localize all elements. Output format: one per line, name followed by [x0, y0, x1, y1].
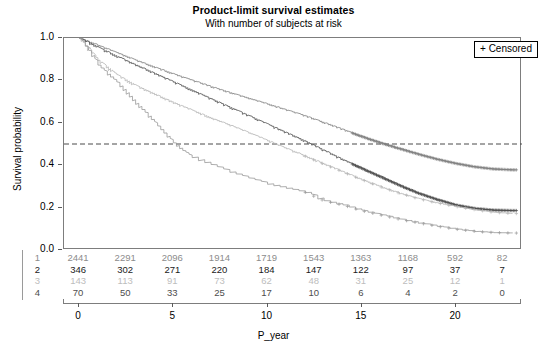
survival-curve-2	[79, 38, 512, 211]
x-axis-label: P_year	[0, 330, 547, 341]
risk-cell: 4	[387, 287, 429, 298]
x-tick-mark	[78, 303, 79, 307]
risk-cell: 91	[151, 275, 193, 286]
risk-cell: 82	[481, 252, 523, 263]
y-tick-mark	[58, 164, 62, 165]
y-tick-label: 0.2	[14, 201, 54, 212]
legend: + Censored	[474, 41, 538, 58]
risk-cell: 346	[57, 264, 99, 275]
risk-cell: 2441	[57, 252, 99, 263]
risk-cell: 1719	[246, 252, 288, 263]
risk-cell: 271	[151, 264, 193, 275]
risk-table-row: 3143113917362483125121	[24, 275, 521, 286]
risk-table-row: 12441229120961914171915431363116859282	[24, 252, 521, 263]
risk-cell: 50	[104, 287, 146, 298]
risk-table-row: 47050332517106420	[24, 287, 521, 298]
risk-cell: 184	[246, 264, 288, 275]
y-tick-label: 0.8	[14, 73, 54, 84]
risk-row-label: 3	[24, 275, 40, 286]
y-tick-mark	[58, 207, 62, 208]
risk-cell: 143	[57, 275, 99, 286]
risk-cell: 0	[481, 287, 523, 298]
x-tick-mark	[361, 303, 362, 307]
y-tick-label: 0.4	[14, 158, 54, 169]
risk-cell: 7	[481, 264, 523, 275]
risk-cell: 70	[57, 287, 99, 298]
plot-area	[63, 37, 521, 249]
risk-cell: 73	[198, 275, 240, 286]
risk-cell: 122	[340, 264, 382, 275]
risk-cell: 113	[104, 275, 146, 286]
chart-subtitle: With number of subjects at risk	[0, 18, 547, 29]
x-tick-label: 20	[435, 310, 475, 321]
y-tick-label: 0.6	[14, 116, 54, 127]
x-tick-label: 15	[341, 310, 381, 321]
survival-chart-figure: Product-limit survival estimates With nu…	[0, 0, 547, 351]
risk-cell: 2096	[151, 252, 193, 263]
risk-cell: 592	[434, 252, 476, 263]
legend-censored-label: + Censored	[480, 43, 532, 54]
x-tick-mark	[455, 303, 456, 307]
x-axis-cap-left	[63, 299, 64, 304]
risk-cell: 2291	[104, 252, 146, 263]
risk-cell: 302	[104, 264, 146, 275]
risk-cell: 31	[340, 275, 382, 286]
risk-row-label: 2	[24, 264, 40, 275]
risk-table-divider	[22, 250, 23, 300]
survival-curve-3	[79, 38, 512, 213]
censor-marks-1	[351, 131, 518, 171]
risk-cell: 25	[387, 275, 429, 286]
survival-curve-4	[79, 38, 512, 233]
x-axis-line	[63, 303, 521, 304]
risk-table-row: 234630227122018414712297377	[24, 264, 521, 275]
risk-cell: 33	[151, 287, 193, 298]
risk-cell: 6	[340, 287, 382, 298]
risk-cell: 1	[481, 275, 523, 286]
x-tick-mark	[172, 303, 173, 307]
x-tick-label: 0	[58, 310, 98, 321]
risk-cell: 25	[198, 287, 240, 298]
risk-cell: 147	[293, 264, 335, 275]
y-tick-mark	[58, 37, 62, 38]
x-tick-mark	[267, 303, 268, 307]
censor-marks-4	[304, 191, 518, 235]
x-axis-cap-right	[520, 299, 521, 304]
survival-curve-1	[79, 38, 512, 170]
x-tick-label: 10	[247, 310, 287, 321]
risk-cell: 97	[387, 264, 429, 275]
risk-cell: 10	[293, 287, 335, 298]
risk-cell: 17	[246, 287, 288, 298]
censor-marks-2	[351, 162, 518, 212]
risk-cell: 48	[293, 275, 335, 286]
risk-cell: 1543	[293, 252, 335, 263]
y-tick-mark	[58, 79, 62, 80]
chart-title: Product-limit survival estimates	[0, 4, 547, 16]
censor-marks-3	[304, 155, 518, 216]
risk-cell: 1168	[387, 252, 429, 263]
y-tick-mark	[58, 122, 62, 123]
risk-row-label: 4	[24, 287, 40, 298]
risk-cell: 62	[246, 275, 288, 286]
y-tick-mark	[58, 249, 62, 250]
risk-cell: 1363	[340, 252, 382, 263]
x-tick-label: 5	[152, 310, 192, 321]
risk-cell: 2	[434, 287, 476, 298]
risk-cell: 220	[198, 264, 240, 275]
risk-cell: 1914	[198, 252, 240, 263]
risk-row-label: 1	[24, 252, 40, 263]
survival-curves	[64, 38, 522, 250]
risk-cell: 12	[434, 275, 476, 286]
y-tick-label: 1.0	[14, 31, 54, 42]
risk-cell: 37	[434, 264, 476, 275]
risk-table: 1244122912096191417191543136311685928223…	[24, 252, 521, 298]
